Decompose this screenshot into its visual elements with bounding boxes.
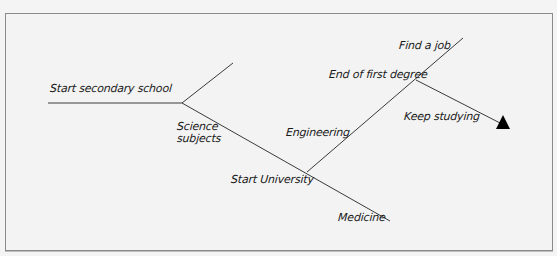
other-subjects-branch [182, 63, 233, 103]
label-science-line2: subjects [177, 133, 222, 145]
decision-tree-lines [0, 0, 557, 256]
label-keep-studying: Keep studying [404, 111, 481, 123]
label-end-of-first-degree: End of first degree [329, 69, 428, 81]
label-find-a-job: Find a job [399, 40, 452, 52]
engineering-line [307, 38, 463, 172]
label-start-university: Start University [231, 174, 315, 186]
label-start-secondary-school: Start secondary school [50, 83, 173, 95]
label-engineering: Engineering [286, 127, 351, 139]
label-medicine: Medicine [338, 212, 386, 224]
